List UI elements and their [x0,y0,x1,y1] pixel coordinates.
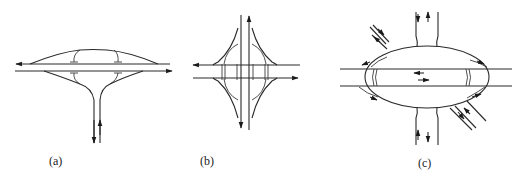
interchange-diagrams [0,0,522,188]
panel-b-diagram [193,15,300,130]
panel-c-label: (c) [418,156,431,171]
panel-c-diagram [340,12,512,145]
panel-b-label: (b) [200,154,214,169]
panel-a-label: (a) [49,154,62,169]
panel-a-diagram [15,50,172,144]
